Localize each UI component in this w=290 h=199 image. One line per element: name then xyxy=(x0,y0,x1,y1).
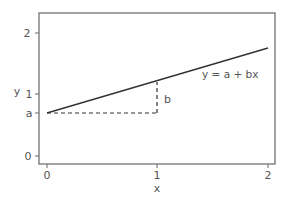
equation-annotation: y = a + bx xyxy=(202,68,258,80)
x-tick-label-1: 1 xyxy=(154,169,161,182)
linear-regression-chart: 2 1 a 0 y 0 1 2 x y = a + bx b xyxy=(0,0,290,199)
y-tick-label-0: 0 xyxy=(25,150,32,163)
slope-annotation: b xyxy=(164,93,171,106)
y-tick-label-a: a xyxy=(26,107,33,120)
y-tick-label-2: 2 xyxy=(24,27,31,40)
x-tick-label-2: 2 xyxy=(265,169,272,182)
x-tick-label-0: 0 xyxy=(44,169,51,182)
y-axis-label: y xyxy=(14,85,21,98)
chart-svg: 2 1 a 0 y 0 1 2 x y = a + bx b xyxy=(0,0,290,199)
x-axis-ticks xyxy=(47,164,268,168)
y-tick-label-1: 1 xyxy=(26,88,33,101)
x-axis-label: x xyxy=(154,182,161,195)
